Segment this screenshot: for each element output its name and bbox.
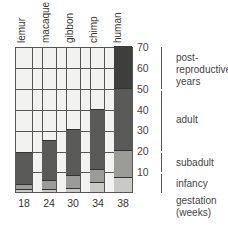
label-post-reproductive: post- reproductive years bbox=[176, 52, 228, 88]
column-divider bbox=[104, 48, 105, 192]
y-tick-10: 10 bbox=[137, 166, 149, 178]
bar-gibbon-adult bbox=[66, 129, 80, 175]
species-label-chimp: chimp bbox=[88, 16, 99, 43]
species-label-gibbon: gibbon bbox=[64, 13, 75, 43]
column-divider bbox=[80, 48, 81, 192]
bar-gibbon-infancy bbox=[66, 188, 80, 192]
bar-human-post-reproductive bbox=[114, 46, 132, 88]
label-infancy: infancy bbox=[176, 178, 208, 190]
bar-macaque-infancy bbox=[42, 189, 56, 192]
brace-adult bbox=[161, 91, 167, 151]
bar-chimp-adult bbox=[90, 109, 104, 169]
y-tick-70: 70 bbox=[137, 41, 149, 53]
column-divider bbox=[32, 48, 33, 192]
gestation-gibbon: 30 bbox=[61, 197, 85, 209]
bar-macaque-adult bbox=[42, 140, 56, 180]
gestation-macaque: 24 bbox=[37, 197, 61, 209]
bar-chimp-infancy bbox=[90, 182, 104, 192]
y-tick-40: 40 bbox=[137, 104, 149, 116]
y-tick-50: 50 bbox=[137, 83, 149, 95]
y-tick-20: 20 bbox=[137, 145, 149, 157]
bar-gibbon-subadult bbox=[66, 175, 80, 188]
gestation-human: 38 bbox=[111, 197, 135, 209]
bar-macaque-subadult bbox=[42, 180, 56, 189]
label-subadult: subadult bbox=[176, 157, 214, 169]
species-label-macaque: macaque bbox=[40, 2, 51, 43]
gestation-lemur: 18 bbox=[12, 197, 36, 209]
y-tick-30: 30 bbox=[137, 124, 149, 136]
bar-human-infancy bbox=[114, 177, 132, 192]
column-divider bbox=[56, 48, 57, 192]
gestation-chimp: 34 bbox=[86, 197, 110, 209]
bar-human-subadult bbox=[114, 150, 132, 177]
label-adult: adult bbox=[176, 114, 198, 126]
brace-post-reproductive bbox=[161, 47, 167, 89]
bar-chimp-subadult bbox=[90, 169, 104, 182]
brace-infancy bbox=[161, 174, 167, 193]
brace-subadult bbox=[161, 153, 167, 172]
species-label-human: human bbox=[112, 12, 123, 43]
bar-lemur-adult bbox=[16, 152, 32, 184]
y-tick-60: 60 bbox=[137, 62, 149, 74]
label-gestation: gestation (weeks) bbox=[176, 195, 217, 219]
plot-area bbox=[15, 47, 133, 193]
species-label-lemur: lemur bbox=[16, 18, 27, 43]
bar-lemur-infancy bbox=[16, 189, 32, 192]
bar-human-adult bbox=[114, 88, 132, 150]
